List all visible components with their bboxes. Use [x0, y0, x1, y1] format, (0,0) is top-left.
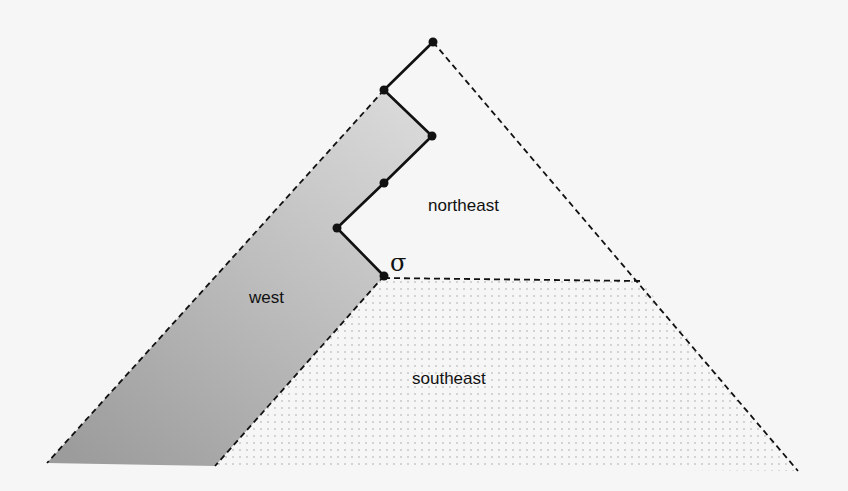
path-vertex [428, 132, 437, 141]
label-southeast: southeast [412, 369, 486, 388]
path-vertex [333, 224, 342, 233]
sigma-label: σ [390, 249, 406, 277]
path-vertex [429, 38, 438, 47]
path-vertex [380, 86, 389, 95]
label-west: west [248, 288, 284, 307]
sigma-vertex [380, 272, 389, 281]
label-northeast: northeast [428, 196, 499, 215]
path-vertex [380, 179, 389, 188]
triangle-diagram: σ northeast west southeast [0, 0, 848, 491]
diagram-canvas: σ northeast west southeast [0, 0, 848, 491]
